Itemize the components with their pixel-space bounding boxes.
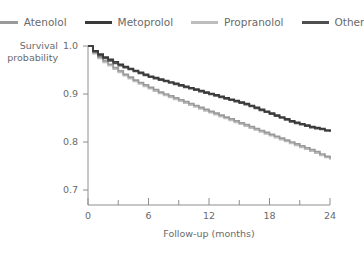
x-tick-label: 12: [203, 210, 215, 221]
y-tick-label: 1.0: [63, 40, 78, 51]
x-tick-group: 06121824: [85, 198, 336, 221]
x-tick-label: 18: [263, 210, 275, 221]
km-curve-metoprolol: [88, 46, 330, 131]
x-tick-label: 24: [324, 210, 336, 221]
km-curve-atenolol: [88, 46, 330, 159]
x-tick-label: 6: [145, 210, 151, 221]
y-tick-label: 0.8: [63, 136, 78, 147]
km-curve-other: [88, 46, 330, 132]
y-tick-label: 0.9: [63, 88, 78, 99]
km-curve-group: [88, 46, 330, 160]
axes-group: [88, 46, 330, 205]
x-axis-label: Follow-up (months): [88, 228, 330, 239]
y-tick-group: 0.70.80.91.0: [63, 40, 88, 195]
y-tick-label: 0.7: [63, 184, 78, 195]
x-tick-label: 0: [85, 210, 91, 221]
